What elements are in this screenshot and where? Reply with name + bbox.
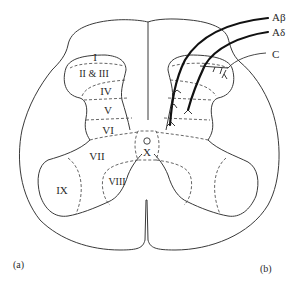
right-ventral-horn-outline (154, 140, 258, 216)
panel-label-a: (a) (13, 259, 24, 271)
central-canal (144, 138, 150, 144)
lamina-boundary-v-vi (86, 118, 132, 120)
panel-label-b: (b) (260, 263, 272, 275)
lamina-label-vi: VI (102, 124, 114, 136)
fiber-label-a-beta: Aβ (272, 11, 286, 23)
fiber-label-c: C (272, 48, 279, 60)
spinal-cord-diagram: I II & III IV V VI VII VIII IX X Aβ Aδ C… (0, 0, 297, 282)
lamina-boundary-ix (68, 158, 81, 214)
c-fiber (228, 53, 266, 68)
lamina-label-vii: VII (89, 150, 105, 162)
lamina-label-v: V (104, 104, 112, 116)
a-delta-terminals (184, 110, 192, 114)
lamina-label-iv: IV (100, 85, 112, 97)
lamina-boundary-vi-vii (90, 132, 138, 140)
right-lamina-boundary-5 (156, 132, 208, 140)
fiber-label-a-delta: Aδ (272, 26, 285, 38)
right-lamina-boundary-7 (156, 160, 192, 205)
c-fiber-terminals (200, 66, 228, 79)
lamina-label-i: I (93, 51, 97, 63)
lamina-label-viii: VIII (108, 176, 125, 187)
lamina-label-ix: IX (56, 184, 68, 196)
lamina-label-x: X (143, 146, 151, 158)
right-lamina-boundary-6 (215, 158, 226, 214)
lamina-label-ii-iii: II & III (79, 68, 108, 79)
